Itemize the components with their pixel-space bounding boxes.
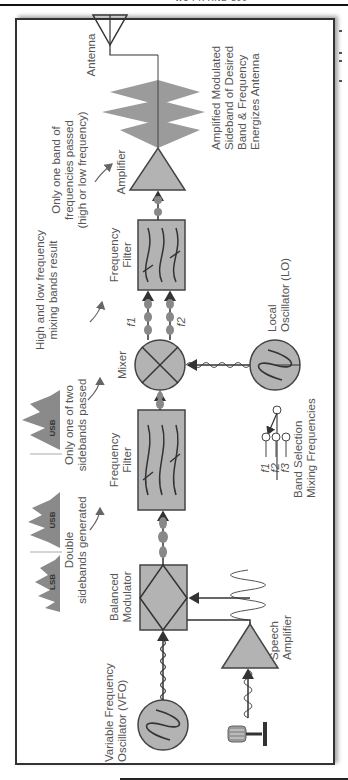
mixer-label: Mixer <box>116 340 129 390</box>
audio-signal-wave <box>231 570 266 620</box>
amplifier-triangle <box>130 148 185 190</box>
antenna-icon <box>93 15 158 55</box>
mixer-icon <box>135 340 185 390</box>
balanced-modulator-label: BalancedModulator <box>108 562 134 632</box>
local-oscillator-label: LocalOscillator (LO) <box>266 222 292 332</box>
frequency-filter-2-block <box>138 220 185 290</box>
speech-amplifier-label: SpeechAmplifier <box>268 590 294 660</box>
output-annotation: Amplified ModulatedSideband of DesiredBa… <box>210 20 262 150</box>
mixer-output-bursts <box>144 299 174 335</box>
lsb-label: LSB <box>46 570 59 594</box>
balanced-modulator-block <box>140 565 187 630</box>
mixer-output-f2-label: f2 <box>175 312 188 332</box>
amplifier-label: Amplifier <box>115 142 128 202</box>
mixing-bands-annotation: High and low frequencymixing bands resul… <box>34 220 60 360</box>
frequency-filter-1-block <box>138 410 185 510</box>
switch-f3-label: f3 <box>279 458 292 478</box>
double-sidebands-annotation: Doublesidebands generated <box>63 490 89 610</box>
band-selection-annotation: Band SelectionMixing Frequencies <box>292 368 318 498</box>
usb-label: USB <box>46 508 59 532</box>
vfo-label: Variable FrequencyOscillator (VFO) <box>103 652 129 762</box>
one-band-annotation: Only one band offrequencies passed(high … <box>50 100 89 240</box>
usb-signal-burst <box>156 392 164 409</box>
one-sideband-annotation: Only one of twosidebands passed <box>63 375 89 475</box>
antenna-label: Antenna <box>85 25 98 85</box>
dsb-signal-burst <box>158 517 168 558</box>
microphone-icon <box>228 722 265 746</box>
filter-1-label: FrequencyFilter <box>108 420 134 500</box>
filter-2-label: FrequencyFilter <box>108 215 134 295</box>
vfo-oscillator-icon <box>138 700 188 750</box>
rotated-diagram-container: Variable FrequencyOscillator (VFO) Balan… <box>0 0 348 780</box>
output-rf-waveform <box>102 80 205 148</box>
usb-only-label: USB <box>46 416 59 440</box>
mixer-output-f1-label: f1 <box>125 312 138 332</box>
